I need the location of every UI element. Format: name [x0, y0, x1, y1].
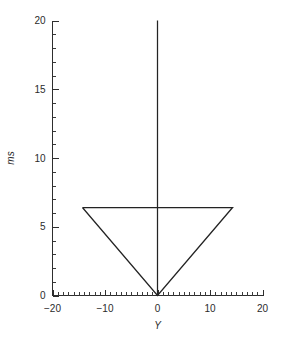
x-tick-label: 0: [155, 303, 161, 314]
chart-figure: −20−100102005101520Yms: [0, 0, 288, 342]
plot-area: −20−100102005101520Yms: [0, 0, 288, 342]
series-group: [82, 21, 232, 296]
x-tick-label: 20: [257, 303, 269, 314]
y-tick-label: 20: [34, 15, 46, 26]
x-tick-label: 10: [204, 303, 216, 314]
y-tick-label: 0: [40, 290, 46, 301]
x-tick-label: −20: [44, 303, 61, 314]
labels-group: −20−100102005101520Yms: [5, 15, 268, 331]
y-axis-title: ms: [5, 151, 16, 164]
y-tick-label: 15: [34, 84, 46, 95]
x-tick-label: −10: [97, 303, 114, 314]
y-tick-label: 5: [40, 221, 46, 232]
x-axis-title: Y: [154, 320, 162, 331]
y-tick-label: 10: [34, 153, 46, 164]
